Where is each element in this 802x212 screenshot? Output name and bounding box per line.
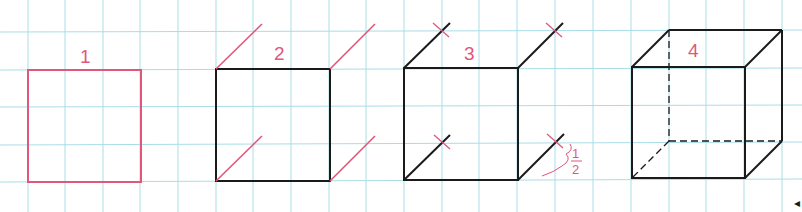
step-2-label: 2 <box>274 43 285 64</box>
half-brace-icon <box>542 144 571 176</box>
step-3-label: 3 <box>464 43 475 64</box>
step-4-cube <box>632 30 782 178</box>
half-numerator: 1 <box>572 146 579 161</box>
arrow-icon: ◂ <box>794 196 800 210</box>
step-2-diagonals <box>216 24 375 181</box>
step-1-square <box>28 70 141 182</box>
step-3-diagonals <box>404 23 564 180</box>
half-denominator: 2 <box>572 162 579 177</box>
step-4-label: 4 <box>688 40 699 61</box>
step-1-label: 1 <box>80 46 91 67</box>
cube-drawing-steps-diagram: 1 2 1 2 3 <box>0 0 802 212</box>
grid-paper <box>0 0 802 212</box>
